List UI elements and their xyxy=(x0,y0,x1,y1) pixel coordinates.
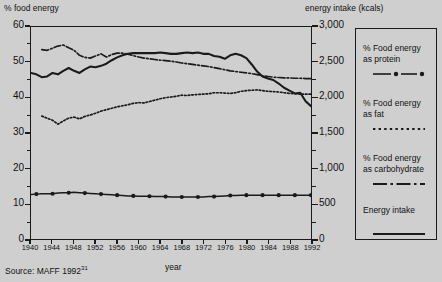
legend-item[interactable]: % Food energyas protein xyxy=(363,43,435,80)
right-tick-mark xyxy=(312,25,318,27)
series-point-marker xyxy=(309,193,311,197)
series-point-marker xyxy=(67,191,71,195)
left-tick-label: 50 xyxy=(0,55,24,66)
right-tick-mark xyxy=(312,61,318,63)
series-point-marker xyxy=(131,194,135,198)
x-tick-mark xyxy=(159,240,161,244)
right-minor-tick-mark xyxy=(312,115,316,116)
series-point-marker xyxy=(293,193,297,197)
series-point-marker xyxy=(83,191,87,195)
left-tick-label: 10 xyxy=(0,197,24,208)
series-line xyxy=(42,45,311,79)
x-tick-label: 1992 xyxy=(299,243,325,252)
right-tick-mark xyxy=(312,168,318,170)
series-point-marker xyxy=(277,193,281,197)
series-line xyxy=(42,90,311,124)
x-tick-mark xyxy=(29,240,31,244)
right-tick-label: 1,500 xyxy=(319,126,344,137)
legend-item[interactable]: Energy intake xyxy=(363,205,435,240)
left-tick-label: 30 xyxy=(0,126,24,137)
legend-item-label: Energy intake xyxy=(363,205,435,216)
right-minor-tick-mark xyxy=(312,222,316,223)
x-tick-mark xyxy=(290,240,292,244)
chart-series-canvas xyxy=(31,27,311,239)
series-point-marker xyxy=(115,193,119,197)
series-point-marker xyxy=(244,193,248,197)
right-axis-title: energy intake (kcals) xyxy=(305,3,383,13)
chart-plot-area xyxy=(30,26,312,240)
x-tick-mark xyxy=(203,240,205,244)
right-tick-mark xyxy=(312,204,318,206)
x-tick-mark xyxy=(181,240,183,244)
series-line-with-dots xyxy=(31,191,311,199)
series-point-marker xyxy=(34,192,38,196)
right-tick-mark xyxy=(312,239,318,241)
series-point-marker xyxy=(228,193,232,197)
right-minor-tick-mark xyxy=(312,186,316,187)
x-tick-mark xyxy=(138,240,140,244)
series-dotted xyxy=(42,90,311,124)
legend-item[interactable]: % Food energyas fat xyxy=(363,98,435,135)
chart-legend: % Food energyas protein% Food energyas f… xyxy=(355,28,437,240)
left-tick-label: 60 xyxy=(0,19,24,30)
x-tick-mark xyxy=(73,240,75,244)
legend-swatch-dotted-marker xyxy=(363,125,435,135)
right-minor-tick-mark xyxy=(312,79,316,80)
right-tick-label: 500 xyxy=(319,197,336,208)
right-tick-label: 2,000 xyxy=(319,90,344,101)
right-tick-label: 3,000 xyxy=(319,19,344,30)
legend-swatch-line-dot-line-marker xyxy=(363,70,435,80)
left-tick-label: 20 xyxy=(0,162,24,173)
source-superscript: 31 xyxy=(81,265,88,271)
series-solid xyxy=(31,52,311,106)
right-tick-label: 1,000 xyxy=(319,162,344,173)
right-minor-tick-mark xyxy=(312,43,316,44)
series-point-marker xyxy=(212,195,216,199)
series-point-marker xyxy=(147,194,151,198)
x-tick-mark xyxy=(225,240,227,244)
x-tick-mark xyxy=(311,240,313,244)
legend-item-label: % Food energyas carbohydrate xyxy=(363,153,435,174)
right-tick-label: 2,500 xyxy=(319,55,344,66)
x-tick-mark xyxy=(268,240,270,244)
series-point-marker xyxy=(50,192,54,196)
x-tick-mark xyxy=(51,240,53,244)
series-point-marker xyxy=(196,195,200,199)
series-point-marker xyxy=(180,195,184,199)
right-tick-mark xyxy=(312,97,318,99)
series-line xyxy=(31,52,311,106)
right-tick-mark xyxy=(312,132,318,134)
series-point-marker xyxy=(99,192,103,196)
x-tick-mark xyxy=(94,240,96,244)
left-tick-label: 40 xyxy=(0,90,24,101)
x-tick-mark xyxy=(116,240,118,244)
left-axis-title: % food energy xyxy=(4,3,59,13)
legend-item-label: % Food energyas fat xyxy=(363,98,435,119)
series-point-marker xyxy=(260,193,264,197)
series-point-marker xyxy=(164,195,168,199)
x-tick-mark xyxy=(246,240,248,244)
series-dash-dot xyxy=(42,45,311,79)
legend-swatch-solid-marker xyxy=(363,230,435,240)
source-text: Source: MAFF 1992 xyxy=(5,266,81,276)
right-minor-tick-mark xyxy=(312,150,316,151)
legend-item[interactable]: % Food energyas carbohydrate xyxy=(363,153,435,190)
source-note: Source: MAFF 199231 xyxy=(5,265,88,276)
x-axis-title: year xyxy=(165,262,182,272)
series-line xyxy=(31,192,311,197)
legend-swatch-dash-dot-marker xyxy=(363,180,435,190)
legend-item-label: % Food energyas protein xyxy=(363,43,435,64)
